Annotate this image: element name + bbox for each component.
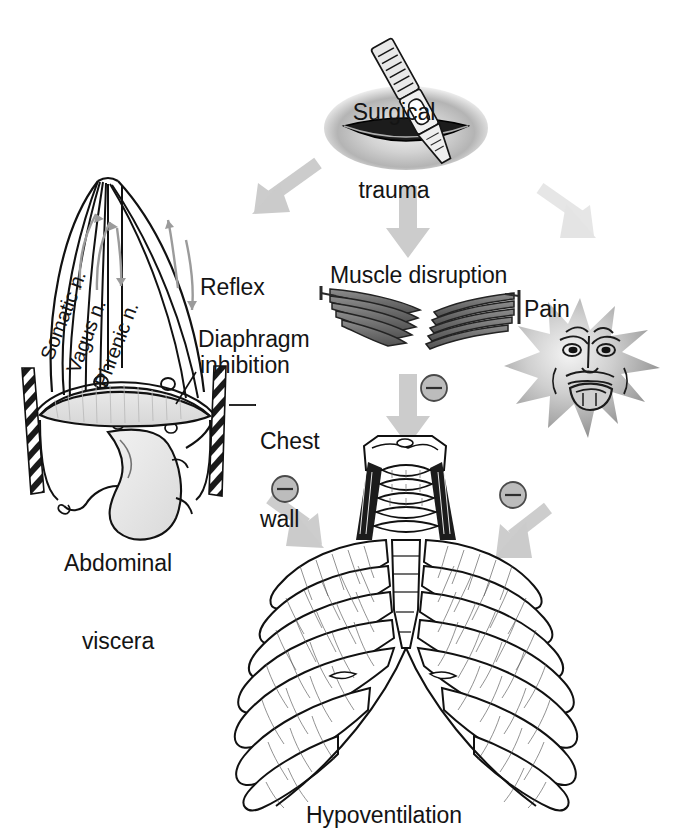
minus-badge-right	[500, 482, 526, 508]
chest-wall-label: Chest wall	[260, 376, 320, 584]
arrow-trauma-to-reflex-inhibition	[252, 163, 318, 214]
minus-badge-center	[421, 375, 447, 401]
arrow-pain-to-outcome	[494, 508, 548, 558]
muscle-disruption-label: Muscle disruption	[330, 262, 507, 288]
torn-muscle-icon	[321, 286, 519, 349]
abdominal-viscera-label: Abdominal viscera	[38, 498, 198, 706]
arrow-trauma-to-pain	[540, 188, 596, 238]
diaphragm-label: Diaphragm	[198, 326, 310, 352]
outcome-label: Hypoventilation atelectasis	[264, 750, 504, 831]
pain-label: Pain	[524, 296, 570, 322]
surgical-trauma-label: Surgical trauma	[334, 47, 454, 255]
diagram-canvas: Surgical trauma Reflex inhibition Muscle…	[0, 0, 674, 831]
